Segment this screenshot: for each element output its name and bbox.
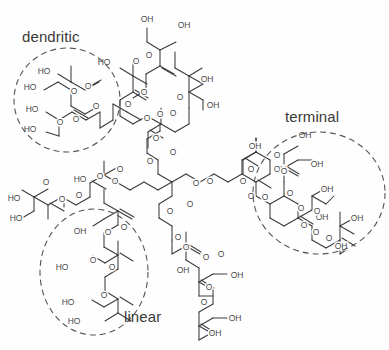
bond	[162, 68, 176, 76]
atom-label: O	[301, 220, 308, 230]
atom-label: OH	[229, 313, 242, 323]
atom-label: O	[101, 290, 108, 300]
bond	[34, 189, 48, 197]
bond	[256, 152, 270, 160]
atom-label: OH	[311, 159, 324, 169]
atom-label: OH	[74, 226, 87, 236]
atom-label: OH	[231, 270, 244, 280]
bond	[105, 313, 118, 321]
atom-label: O	[183, 242, 190, 252]
atom-label: O	[153, 133, 160, 143]
atom-label: O	[57, 117, 64, 127]
atom-label: HO	[26, 104, 39, 114]
bond	[22, 211, 34, 218]
bond	[104, 203, 118, 211]
atom-label: O	[117, 164, 124, 174]
atom-label: OH	[321, 184, 334, 194]
bond	[284, 146, 298, 154]
atom-label: HO	[38, 66, 51, 76]
bond	[270, 218, 284, 226]
bond	[256, 174, 270, 182]
bond	[312, 240, 326, 248]
atom-label: O	[207, 176, 214, 186]
annotation-label-dendritic: dendritic	[22, 28, 80, 45]
bond	[58, 82, 71, 90]
bond	[34, 197, 48, 205]
bond	[46, 132, 59, 136]
bond	[120, 68, 133, 76]
bond	[130, 182, 144, 190]
atom-label: O	[90, 255, 97, 265]
atom-label: O	[76, 190, 83, 200]
bond	[144, 182, 158, 190]
atom-label: O	[109, 262, 116, 272]
atom-label: O	[146, 50, 153, 60]
bond	[158, 182, 172, 190]
bond	[159, 196, 172, 204]
atom-label: O	[59, 194, 66, 204]
atom-label: O	[167, 206, 174, 216]
atom-label: O	[193, 178, 200, 188]
bond	[189, 84, 203, 92]
bond	[175, 68, 189, 76]
atom-label: HO	[24, 82, 37, 92]
bond	[312, 196, 326, 204]
bond	[100, 120, 113, 128]
bond	[92, 181, 106, 189]
atom-label: O	[248, 164, 255, 174]
atom-label: O	[287, 188, 294, 198]
annotation-label-terminal: terminal	[285, 108, 339, 125]
atom-label: O	[144, 113, 151, 123]
bond	[147, 42, 160, 50]
atom-label: O	[112, 176, 119, 186]
structure-canvas: OHOHOHOHOOOOHOHOOOOOHOHOHOHOOOOOHOHOHOHO…	[0, 0, 389, 350]
atom-label: O	[206, 282, 213, 292]
atom-label: O	[147, 156, 154, 166]
bond	[118, 183, 130, 190]
atom-label: O	[170, 147, 177, 157]
bond	[92, 300, 104, 307]
bond	[120, 297, 133, 305]
atom-label: HO	[74, 174, 87, 184]
bond	[160, 42, 176, 50]
atom-label: O	[313, 227, 320, 237]
bond	[22, 190, 34, 197]
bond	[189, 92, 203, 100]
atom-label: OH	[141, 14, 154, 24]
atom-label: HO	[62, 297, 75, 307]
bond	[284, 218, 298, 226]
bond	[172, 174, 186, 182]
atom-label: O	[175, 232, 182, 242]
bond	[120, 253, 133, 261]
bond	[199, 318, 213, 326]
bond	[86, 112, 100, 120]
atom-label: O	[93, 101, 100, 111]
bond	[133, 76, 147, 84]
atom-label: O	[97, 171, 104, 181]
atom-label: O	[125, 99, 132, 109]
atom-label: OH	[249, 141, 262, 151]
atom-label: O	[274, 150, 281, 160]
bond	[93, 219, 104, 226]
atom-label: OH	[209, 328, 222, 338]
annotation-label-linear: linear	[124, 308, 161, 325]
atom-label: O	[203, 252, 210, 262]
bond	[326, 196, 334, 204]
atom-label: O	[105, 227, 112, 237]
bond	[148, 124, 161, 132]
bond	[243, 152, 256, 160]
atom-label: O	[170, 108, 177, 118]
bond	[120, 116, 133, 124]
atom-label: O	[43, 177, 50, 187]
atom-label: O	[314, 206, 321, 216]
atom-label: HO	[56, 262, 69, 272]
bond	[270, 196, 284, 204]
bond	[158, 174, 172, 182]
atom-label: O	[218, 249, 225, 259]
atom-label: O	[240, 176, 247, 186]
atom-label: O	[326, 233, 333, 243]
atom-label: O	[281, 166, 288, 176]
bond-network	[22, 28, 355, 340]
atom-label: O	[141, 87, 148, 97]
atom-label: HO	[24, 124, 37, 134]
